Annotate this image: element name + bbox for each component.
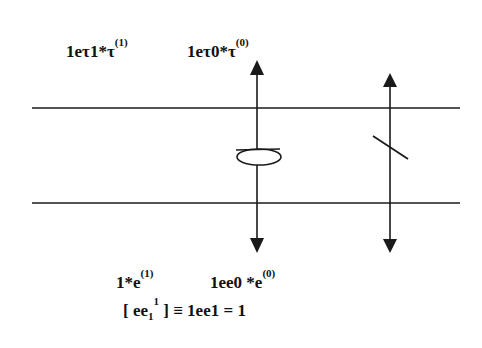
equation-superscript: 1 bbox=[154, 295, 160, 307]
label-e-0: 1ee0 *e(0) bbox=[210, 272, 275, 291]
label-base: 1eτ1*τ bbox=[66, 42, 115, 61]
equation-rest: ] ≡ 1ee1 = 1 bbox=[159, 301, 246, 320]
down-arrowhead-icon bbox=[383, 239, 397, 253]
equation-open: [ ee bbox=[123, 301, 148, 320]
label-tau-0: 1eτ0*τ(0) bbox=[187, 41, 249, 60]
right-vertical-arrow bbox=[383, 73, 397, 253]
label-superscript: (0) bbox=[236, 36, 249, 48]
up-arrowhead-icon bbox=[383, 73, 397, 87]
label-superscript: (0) bbox=[262, 267, 275, 279]
label-superscript: (1) bbox=[141, 267, 154, 279]
up-arrowhead-icon bbox=[250, 60, 264, 75]
equation-subscript: 1 bbox=[148, 310, 154, 322]
equation-line: [ ee11 ] ≡ 1ee1 = 1 bbox=[123, 300, 246, 322]
label-superscript: (1) bbox=[115, 36, 128, 48]
label-tau-1: 1eτ1*τ(1) bbox=[66, 41, 128, 60]
label-base: 1*e bbox=[116, 273, 141, 292]
ellipse-marker bbox=[236, 149, 281, 165]
label-e-1: 1*e(1) bbox=[116, 272, 153, 291]
down-arrowhead-icon bbox=[250, 238, 264, 253]
label-base: 1eτ0*τ bbox=[187, 42, 236, 61]
label-base: 1ee0 *e bbox=[210, 273, 262, 292]
diagram: 1eτ1*τ(1) 1eτ0*τ(0) 1*e(1) 1ee0 *e(0) [ … bbox=[0, 0, 482, 348]
